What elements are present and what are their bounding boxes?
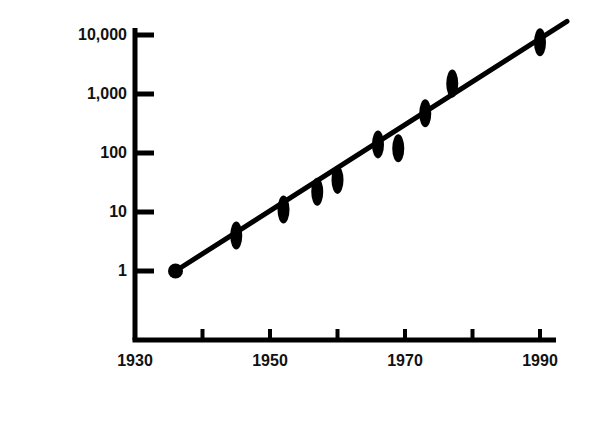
plot-background — [0, 0, 605, 430]
y-tick-label: 10 — [109, 203, 127, 221]
x-tick-label: 1970 — [387, 352, 423, 370]
data-point — [392, 134, 404, 162]
plot-area — [0, 0, 605, 430]
data-point — [534, 28, 546, 56]
data-point — [311, 178, 323, 206]
data-point — [278, 196, 290, 224]
y-tick-label: 100 — [100, 144, 127, 162]
x-tick-label: 1990 — [522, 352, 558, 370]
y-tick-label: 10,000 — [78, 26, 127, 44]
data-point — [446, 70, 458, 98]
x-tick-label: 1950 — [252, 352, 288, 370]
data-point — [168, 264, 183, 279]
data-point — [230, 221, 242, 249]
x-tick-label: 1930 — [117, 352, 153, 370]
y-tick-label: 1,000 — [87, 85, 127, 103]
data-point — [419, 99, 431, 127]
chart-figure: Ions influenced by defect site Year 1101… — [0, 0, 605, 430]
data-point — [332, 166, 344, 194]
data-point — [372, 130, 384, 158]
y-tick-label: 1 — [118, 262, 127, 280]
